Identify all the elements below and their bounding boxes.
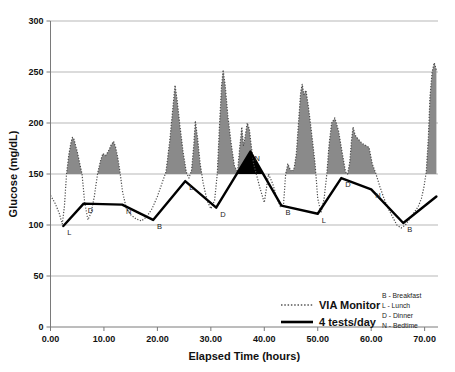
annotation-b-3: B	[157, 222, 162, 231]
glucose-chart: 050100150200250300 0.0010.0020.0030.0040…	[0, 0, 455, 372]
y-tick-label-200: 200	[28, 118, 43, 128]
x-tick-label-10: 10.00	[93, 334, 116, 344]
annotation-n-10: N	[375, 191, 380, 200]
annotation-l-4: L	[189, 183, 193, 192]
key-bedtime: N - Bedtime	[382, 322, 418, 329]
x-tick-label-70: 70.00	[413, 334, 436, 344]
legend-label-4-tests-day: 4 tests/day	[319, 316, 377, 328]
annotation-b-7: B	[285, 208, 290, 217]
x-tick-label-40: 40.00	[253, 334, 276, 344]
key-dinner: D - Dinner	[382, 312, 414, 319]
key-breakfast: B - Breakfast	[382, 292, 421, 299]
x-tick-label-20: 20.00	[146, 334, 169, 344]
y-tick-label-50: 50	[33, 271, 43, 281]
y-tick-label-150: 150	[28, 169, 43, 179]
x-tick-label-60: 60.00	[360, 334, 383, 344]
annotation-n-6: N	[254, 154, 259, 163]
key-lunch: L - Lunch	[382, 302, 410, 309]
x-tick-label-0: 0.00	[42, 334, 60, 344]
annotation-l-8: L	[322, 216, 326, 225]
legend-label-via-monitor: VIA Monitor	[319, 299, 381, 311]
annotation-l-0: L	[67, 228, 71, 237]
annotation-d-5: D	[220, 210, 226, 219]
annotation-d-9: D	[345, 180, 351, 189]
annotation-d-1: D	[88, 206, 94, 215]
y-tick-label-100: 100	[28, 220, 43, 230]
y-axis-title: Glucose (mg/dL)	[7, 130, 19, 217]
x-axis-title: Elapsed Time (hours)	[188, 350, 300, 362]
y-tick-label-300: 300	[28, 16, 43, 26]
y-tick-label-250: 250	[28, 67, 43, 77]
annotation-n-2: N	[126, 207, 131, 216]
chart-canvas: 050100150200250300 0.0010.0020.0030.0040…	[0, 0, 455, 372]
x-tick-label-30: 30.00	[200, 334, 223, 344]
y-tick-label-0: 0	[38, 322, 43, 332]
x-tick-label-50: 50.00	[306, 334, 329, 344]
annotation-b-11: B	[407, 225, 412, 234]
